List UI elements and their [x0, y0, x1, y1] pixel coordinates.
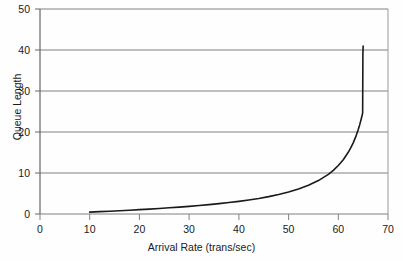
x-tick-label-50: 50	[277, 223, 301, 235]
x-axis-title: Arrival Rate (trans/sec)	[0, 241, 403, 253]
y-axis-title: Queue Length	[11, 57, 23, 157]
y-tick-label-10: 10	[4, 167, 30, 179]
queue-length-chart: 50 40 30 20 10 0 0 10 20 30 40 50 60 70 …	[0, 0, 403, 261]
y-tick-label-50: 50	[4, 3, 30, 15]
x-tick-marks	[40, 214, 388, 220]
x-tick-label-0: 0	[28, 223, 52, 235]
queue-length-curve	[90, 46, 363, 212]
x-tick-label-40: 40	[227, 223, 251, 235]
y-tick-label-40: 40	[4, 44, 30, 56]
axes	[40, 9, 388, 214]
y-tick-label-0: 0	[4, 208, 30, 220]
x-tick-label-30: 30	[177, 223, 201, 235]
x-tick-label-70: 70	[376, 223, 400, 235]
gridlines	[40, 9, 388, 173]
x-tick-label-60: 60	[326, 223, 350, 235]
y-tick-marks	[35, 9, 40, 214]
x-tick-label-20: 20	[127, 223, 151, 235]
plot-area	[0, 0, 403, 261]
x-tick-label-10: 10	[78, 223, 102, 235]
